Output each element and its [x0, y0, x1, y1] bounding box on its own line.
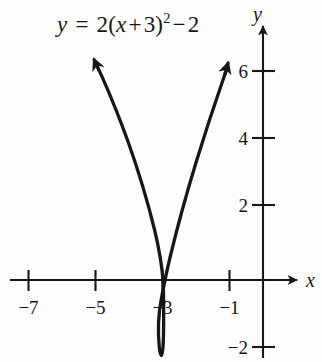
x-axis-label: x	[306, 270, 315, 290]
x-tick-label--5: −5	[85, 298, 105, 317]
y-tick-label-4: 4	[228, 129, 248, 148]
equation-plus: +	[126, 12, 143, 37]
equation-exponent: 2	[163, 10, 170, 26]
equation-minus: −	[171, 12, 188, 37]
equation-annotation: y = 2(x+3)2−2	[57, 13, 199, 36]
equation-inner-var: x	[116, 12, 126, 37]
y-tick-label-6: 6	[228, 62, 248, 81]
y-tick-label--2: −2	[215, 338, 248, 357]
equation-open-paren: (	[108, 12, 116, 37]
equation-equals: =	[73, 12, 90, 37]
equation-inner-constant: 3	[144, 12, 156, 37]
y-axis-label: y	[253, 4, 262, 24]
x-tick-label--1: −1	[219, 298, 239, 317]
equation-coefficient: 2	[97, 12, 109, 37]
equation-lhs-var: y	[57, 12, 67, 37]
x-tick-label--3: −3	[152, 298, 172, 317]
x-tick-label--7: −7	[18, 298, 38, 317]
parabola-figure: y = 2(x+3)2−2 x y −7 −5 −3 −1 6 4 2 −2	[0, 0, 322, 362]
y-tick-label-2: 2	[228, 196, 248, 215]
equation-constant: 2	[188, 12, 200, 37]
parabola-left-arrow	[94, 59, 100, 73]
